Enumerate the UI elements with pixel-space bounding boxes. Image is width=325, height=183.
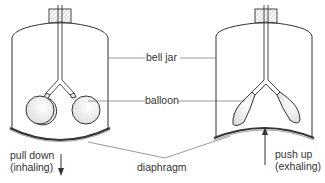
inhaling-label: (inhaling)	[10, 161, 53, 173]
balloon-label: balloon	[145, 94, 179, 106]
pull-down-arrow-icon	[58, 154, 64, 176]
left-stopper	[49, 9, 71, 23]
diaphragm-label: diaphragm	[137, 161, 187, 173]
right-stopper	[255, 9, 277, 23]
pull-down-label: pull down	[10, 149, 55, 161]
push-up-label: push up	[275, 148, 313, 160]
leader-lines	[88, 58, 245, 158]
exhaling-label: (exhaling)	[275, 160, 321, 172]
lung-model-diagram: bell jar balloon diaphragm pull down (in…	[0, 0, 325, 183]
left-balloons-inflated	[26, 93, 100, 125]
right-balloons-deflated	[233, 92, 300, 126]
bell-jar-label: bell jar	[146, 51, 177, 63]
left-diaphragm	[10, 128, 110, 140]
push-up-arrow-icon	[262, 127, 268, 165]
